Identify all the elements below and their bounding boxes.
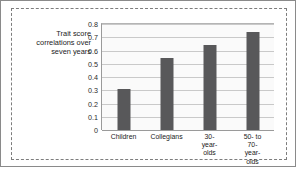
bar-series: ChildrenCollegians30-year- olds50- to 70… [102,24,274,130]
x-category-label: Collegians [150,133,182,141]
bar [246,32,259,130]
y-tick-label: 0.2 [88,99,98,108]
x-category-label: 30-year- olds [199,133,221,158]
gridline [102,130,274,131]
bar [160,58,173,130]
plot-area: 00.10.20.30.40.50.60.70.8 ChildrenColleg… [101,23,274,130]
y-axis-caption: Trait score correlations over seven year… [21,29,91,57]
y-tick-label: 0.4 [88,73,98,82]
y-tick-label: 0.8 [88,20,98,29]
x-category-label: 50- to 70-year-olds [242,133,264,166]
figure-container: Trait score correlations over seven year… [0,0,296,167]
y-tick-label: 0 [94,126,98,135]
bar [203,45,216,130]
y-tick-label: 0.6 [88,46,98,55]
bar-group: Children [102,24,145,130]
bar-group: Collegians [145,24,188,130]
x-category-label: Children [111,133,137,141]
bar [117,89,130,130]
y-tick-label: 0.5 [88,59,98,68]
y-tick-label: 0.3 [88,86,98,95]
bar-group: 50- to 70-year-olds [231,24,274,130]
bar-chart: Trait score correlations over seven year… [1,1,295,166]
y-tick-label: 0.1 [88,112,98,121]
bar-group: 30-year- olds [188,24,231,130]
y-tick-label: 0.7 [88,33,98,42]
